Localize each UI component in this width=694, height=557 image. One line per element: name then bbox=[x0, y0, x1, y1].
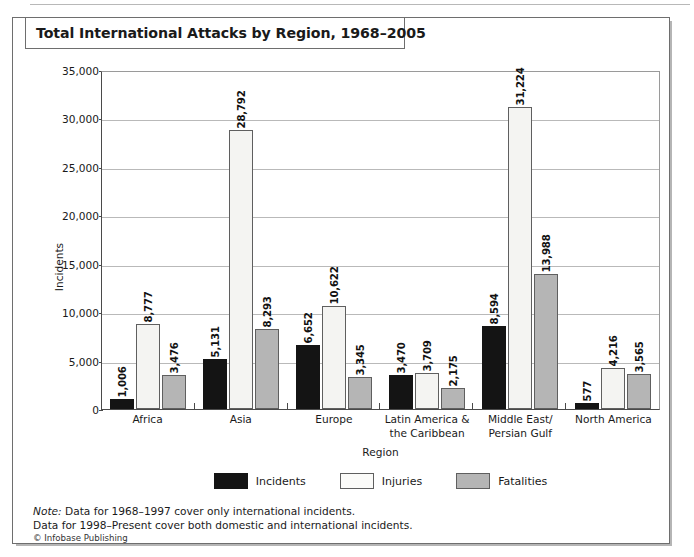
bar-column: 3,709 bbox=[415, 72, 439, 409]
bar-value-label: 6,652 bbox=[303, 283, 314, 343]
x-axis-category-line: Latin America & bbox=[381, 413, 474, 427]
bar-incidents[interactable] bbox=[482, 326, 506, 409]
bar-value-label: 1,006 bbox=[117, 338, 128, 398]
bar-column: 31,224 bbox=[508, 72, 532, 409]
bar-column: 3,565 bbox=[627, 72, 651, 409]
x-axis-category-label: Latin America &the Caribbean bbox=[381, 413, 474, 440]
bar-group-bars: 8,59431,22413,988 bbox=[473, 72, 566, 409]
bar-value-label: 31,224 bbox=[514, 45, 525, 105]
bar-column: 3,476 bbox=[162, 72, 186, 409]
bar-incidents[interactable] bbox=[110, 399, 134, 409]
y-axis-tick-label: 5,000 bbox=[69, 356, 99, 368]
bar-group: 1,0068,7773,476 bbox=[102, 72, 195, 409]
y-axis-tick-mark bbox=[99, 410, 103, 411]
bar-column: 10,622 bbox=[322, 72, 346, 409]
bar-value-label: 8,777 bbox=[143, 263, 154, 323]
x-axis-title: Region bbox=[101, 446, 660, 458]
x-axis-category-line: Middle East/ bbox=[474, 413, 567, 427]
bar-group-bars: 5,13128,7928,293 bbox=[195, 72, 288, 409]
bar-value-label: 8,594 bbox=[488, 264, 499, 324]
y-axis-tick-label: 10,000 bbox=[62, 307, 99, 319]
x-axis-category-label: Middle East/Persian Gulf bbox=[474, 413, 567, 440]
x-axis-category-line: North America bbox=[567, 413, 660, 427]
bar-groups: 1,0068,7773,4765,13128,7928,2936,65210,6… bbox=[102, 72, 659, 409]
bar-value-label: 5,131 bbox=[210, 298, 221, 358]
legend-swatch bbox=[214, 473, 248, 489]
note-line-2: Data for 1998–Present cover both domesti… bbox=[33, 519, 633, 533]
legend-item-injuries[interactable]: Injuries bbox=[340, 473, 422, 489]
bar-value-label: 10,622 bbox=[329, 245, 340, 305]
bar-column: 3,470 bbox=[389, 72, 413, 409]
chart-area: Incidents 35,00030,00025,00020,00015,000… bbox=[13, 18, 671, 545]
bar-injuries[interactable] bbox=[136, 324, 160, 409]
y-axis-tick-label: 0 bbox=[92, 404, 99, 416]
bar-group-bars: 5774,2163,565 bbox=[566, 72, 659, 409]
y-axis-title-wrap: Incidents bbox=[35, 71, 51, 410]
bar-column: 6,652 bbox=[296, 72, 320, 409]
bar-group: 3,4703,7092,175 bbox=[380, 72, 473, 409]
bar-incidents[interactable] bbox=[389, 375, 413, 409]
legend-label: Injuries bbox=[382, 475, 422, 488]
bar-fatalities[interactable] bbox=[441, 388, 465, 409]
x-axis-category-labels: AfricaAsiaEuropeLatin America &the Carib… bbox=[101, 413, 660, 440]
legend-item-incidents[interactable]: Incidents bbox=[214, 473, 306, 489]
bar-injuries[interactable] bbox=[415, 373, 439, 409]
bar-column: 3,345 bbox=[348, 72, 372, 409]
y-axis-tick-label: 35,000 bbox=[62, 65, 99, 77]
y-axis-tick-labels: 35,00030,00025,00020,00015,00010,0005,00… bbox=[51, 71, 99, 410]
figure-frame: Total International Attacks by Region, 1… bbox=[12, 17, 670, 544]
note-line-1: Note: Data for 1968–1997 cover only inte… bbox=[33, 505, 633, 519]
bar-injuries[interactable] bbox=[601, 368, 625, 409]
x-axis-category-line: Persian Gulf bbox=[474, 427, 567, 441]
bar-fatalities[interactable] bbox=[348, 377, 372, 409]
note-label: Note: bbox=[33, 505, 62, 517]
bar-fatalities[interactable] bbox=[162, 375, 186, 409]
bar-column: 1,006 bbox=[110, 72, 134, 409]
bar-value-label: 28,792 bbox=[236, 69, 247, 129]
x-axis-category-label: Europe bbox=[287, 413, 380, 440]
bar-column: 8,594 bbox=[482, 72, 506, 409]
bar-value-label: 3,345 bbox=[355, 315, 366, 375]
y-axis-tick-label: 30,000 bbox=[62, 113, 99, 125]
x-axis-category-label: Africa bbox=[101, 413, 194, 440]
publisher-credit: © Infobase Publishing bbox=[33, 533, 128, 543]
legend-swatch bbox=[340, 473, 374, 489]
bar-column: 8,293 bbox=[255, 72, 279, 409]
bar-value-label: 3,476 bbox=[169, 314, 180, 374]
legend-label: Incidents bbox=[256, 475, 306, 488]
x-axis-category-label: Asia bbox=[194, 413, 287, 440]
y-axis-tick-label: 15,000 bbox=[62, 259, 99, 271]
bar-value-label: 3,565 bbox=[633, 313, 644, 373]
x-axis-category-line: Europe bbox=[287, 413, 380, 427]
x-axis-category-line: Africa bbox=[101, 413, 194, 427]
bar-group: 5,13128,7928,293 bbox=[195, 72, 288, 409]
bar-group-bars: 6,65210,6223,345 bbox=[288, 72, 381, 409]
chart-notes: Note: Data for 1968–1997 cover only inte… bbox=[33, 505, 633, 532]
bar-incidents[interactable] bbox=[296, 345, 320, 409]
x-axis-category-label: North America bbox=[567, 413, 660, 440]
bar-group: 6,65210,6223,345 bbox=[288, 72, 381, 409]
bar-value-label: 3,709 bbox=[421, 312, 432, 372]
bar-column: 13,988 bbox=[534, 72, 558, 409]
bar-column: 4,216 bbox=[601, 72, 625, 409]
x-axis-category-line: Asia bbox=[194, 413, 287, 427]
bar-fatalities[interactable] bbox=[255, 329, 279, 409]
bar-value-label: 577 bbox=[581, 342, 592, 402]
bar-column: 577 bbox=[575, 72, 599, 409]
bar-incidents[interactable] bbox=[575, 403, 599, 409]
bar-fatalities[interactable] bbox=[627, 374, 651, 409]
bar-column: 2,175 bbox=[441, 72, 465, 409]
page-top-rule bbox=[30, 4, 690, 5]
bar-column: 5,131 bbox=[203, 72, 227, 409]
bar-injuries[interactable] bbox=[322, 306, 346, 409]
bar-group: 5774,2163,565 bbox=[566, 72, 659, 409]
legend-item-fatalities[interactable]: Fatalities bbox=[456, 473, 547, 489]
bar-injuries[interactable] bbox=[508, 107, 532, 409]
bar-incidents[interactable] bbox=[203, 359, 227, 409]
x-axis-category-line: the Caribbean bbox=[381, 427, 474, 441]
bar-fatalities[interactable] bbox=[534, 274, 558, 409]
bar-injuries[interactable] bbox=[229, 130, 253, 409]
plot-area: 1,0068,7773,4765,13128,7928,2936,65210,6… bbox=[101, 71, 660, 410]
bar-column: 8,777 bbox=[136, 72, 160, 409]
legend-swatch bbox=[456, 473, 490, 489]
